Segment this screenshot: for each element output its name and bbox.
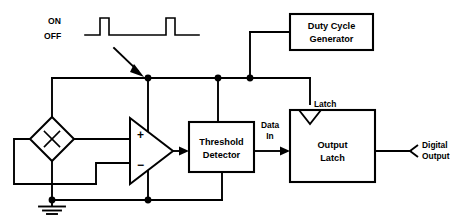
latch-clock-label: Latch	[314, 99, 336, 109]
top-supply-bus	[52, 32, 310, 200]
threshold-detector-label-line1: Threshold	[199, 137, 243, 147]
amplifier-plus-label: +	[137, 128, 144, 142]
duty-cycle-generator-block	[290, 14, 373, 50]
junction-dot	[215, 75, 222, 82]
hall-feedback-wiring	[14, 139, 130, 200]
pulse-waveform	[85, 18, 199, 35]
output-latch-label-line2: Latch	[320, 153, 345, 163]
threshold-detector-block	[189, 122, 254, 172]
differential-amplifier: + −	[130, 118, 173, 184]
block-diagram-figure: + −	[0, 0, 450, 223]
waveform-on-label: ON	[48, 16, 61, 26]
hall-element-symbol	[30, 117, 74, 161]
digital-output-label-line2: Output	[422, 151, 450, 161]
schematic-canvas: + −	[0, 0, 450, 223]
output-latch-label-line1: Output	[317, 140, 347, 150]
duty-cycle-generator-label-line1: Duty Cycle	[308, 21, 356, 31]
threshold-ground-leg	[148, 172, 222, 200]
junction-dot	[145, 75, 152, 82]
junction-dot	[145, 197, 152, 204]
amp-to-threshold-wire	[173, 147, 189, 156]
supply-pointer-arrow	[114, 48, 144, 77]
threshold-to-latch-wire	[254, 147, 290, 156]
junction-dot	[247, 75, 254, 82]
ground-symbol	[39, 200, 65, 214]
threshold-detector-label-line2: Detector	[203, 150, 241, 160]
data-in-label-line2: In	[266, 131, 273, 141]
digital-output-wire	[375, 145, 418, 157]
data-in-label-line1: Data	[261, 120, 279, 130]
amplifier-minus-label: −	[137, 158, 144, 172]
waveform-off-label: OFF	[44, 31, 61, 41]
digital-output-label-line1: Digital	[422, 140, 448, 150]
duty-cycle-generator-label-line2: Generator	[310, 34, 354, 44]
